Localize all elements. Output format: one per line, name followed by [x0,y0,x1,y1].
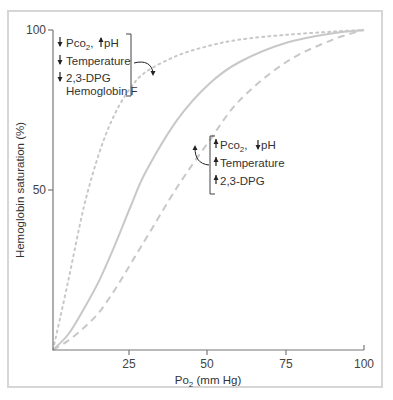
oxygen-dissociation-chart: 100 50 25 50 75 100 Po2 (mm Hg) Hemoglob… [0,0,393,400]
pointer-arrowhead-right-icon [193,145,198,150]
arrow-down-temperature-icon [58,55,63,65]
x-tick-label-25: 25 [122,357,136,371]
arrow-up-pco2-icon [214,139,219,148]
right-line2: Temperature [220,157,285,169]
left-line1-ph: pH [104,37,119,49]
y-tick-label-50: 50 [33,183,47,197]
annotation-left-shift: Pco2, pH Temperature 2,3-DPG Hemoglobin … [58,34,156,97]
pointer-arrowhead-left-icon [151,71,156,76]
arrow-up-ph-icon [99,37,104,47]
x-axis-title: Po2 (mm Hg) [175,374,242,389]
right-line3: 2,3-DPG [220,175,265,187]
bracket-right [210,136,215,194]
left-line4: Hemoglobin F [66,85,138,97]
right-line1: Pco2, [220,139,247,154]
arrow-down-pco2-icon [58,37,63,47]
arrow-down-ph-icon [256,140,261,150]
y-axis-title: Hemoglobin saturation (%) [14,122,26,258]
right-line1-ph: pH [261,139,276,151]
x-tick-label-75: 75 [279,357,293,371]
y-tick-label-100: 100 [26,23,46,37]
pointer-arrow-left [134,62,153,73]
left-line2: Temperature [66,55,131,67]
arrow-down-dpg-icon [58,72,63,82]
left-line3: 2,3-DPG [66,72,111,84]
arrow-up-temperature-icon [214,157,219,166]
arrow-up-dpg-icon [214,175,219,184]
left-line1: Pco2, [66,37,93,52]
x-tick-label-100: 100 [354,357,374,371]
x-tick-label-50: 50 [200,357,214,371]
